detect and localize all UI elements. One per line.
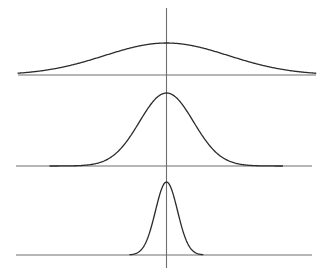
normal-distribution-figure — [0, 0, 329, 270]
distribution-plot-svg — [0, 0, 329, 270]
